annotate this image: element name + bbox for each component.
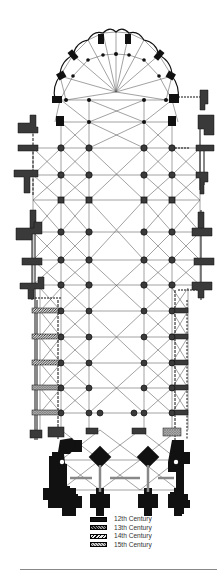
swatch-crosshatch-icon	[90, 525, 107, 530]
legend-item-14th-century: 14th Century	[90, 532, 152, 541]
transept-buttresses	[14, 90, 214, 299]
legend-label: 15th Century	[114, 541, 152, 549]
swatch-solid-icon	[90, 517, 107, 522]
legend-label: 13th Century	[114, 524, 152, 532]
legend-item-13th-century: 13th Century	[90, 524, 152, 533]
swatch-light-crosshatch-icon	[90, 542, 107, 547]
swatch-diagonal-hatch-icon	[90, 534, 107, 539]
legend-item-12th-century: 12th Century	[90, 515, 152, 524]
west-facade-openings	[60, 460, 178, 464]
legend-item-15th-century: 15th Century	[90, 541, 152, 550]
nave-chapel-buttresses	[30, 308, 188, 438]
legend: 12th Century 13th Century 14th Century 1…	[90, 515, 152, 549]
apse-chapels	[54, 29, 178, 100]
legend-label: 14th Century	[114, 532, 152, 540]
legend-label: 12th Century	[114, 515, 152, 523]
bottom-divider	[20, 569, 217, 570]
west-bay-connectors	[70, 465, 174, 492]
cathedral-floor-plan	[0, 0, 217, 577]
